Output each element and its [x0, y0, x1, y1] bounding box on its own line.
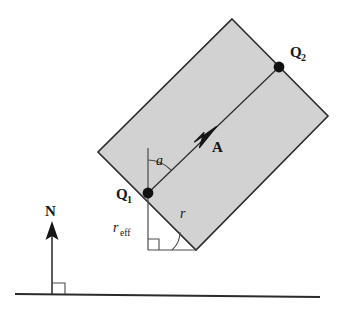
- angle-r-arc: [172, 232, 180, 250]
- point-q2-dot: [274, 62, 285, 73]
- point-q1-dot: [143, 188, 154, 199]
- ground-line: [15, 294, 320, 297]
- label-vector-a: A: [212, 139, 223, 155]
- figure-container: Q 2 Q 1 A N a r r eff: [0, 0, 345, 311]
- label-r-eff-subscript: eff: [120, 228, 131, 238]
- label-vector-n: N: [45, 203, 56, 219]
- right-angle-marker-base: [148, 239, 159, 250]
- label-angle-r: r: [180, 206, 186, 221]
- label-angle-a: a: [156, 153, 163, 168]
- label-q1-subscript: 1: [127, 194, 132, 205]
- diagram-canvas: Q 2 Q 1 A N a r r eff: [0, 0, 345, 311]
- right-angle-marker-ground: [52, 283, 65, 295]
- label-q2-subscript: 2: [301, 52, 306, 63]
- label-r-eff: r: [113, 220, 119, 235]
